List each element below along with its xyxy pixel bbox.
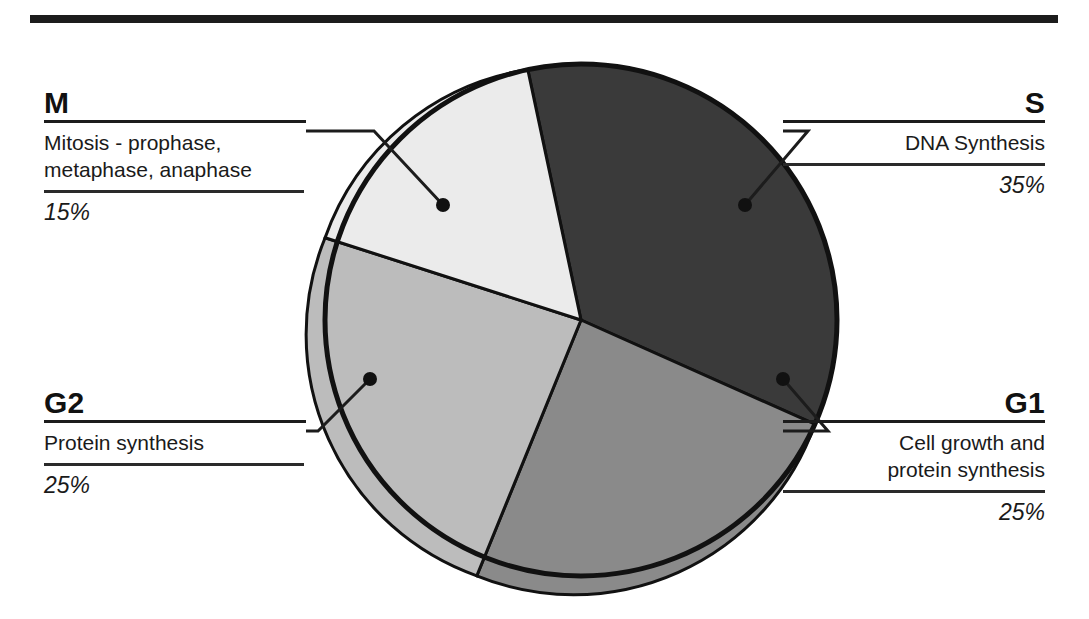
cell-cycle-figure: M Mitosis - prophase, metaphase, anaphas… — [0, 0, 1089, 619]
leader-dot-s — [738, 198, 752, 212]
callout-m[interactable]: M Mitosis - prophase, metaphase, anaphas… — [44, 88, 306, 225]
callout-g2-description: Protein synthesis — [44, 430, 306, 457]
leader-dot-g2 — [363, 372, 377, 386]
leader-dot-g1 — [776, 372, 790, 386]
callout-g1-percent: 25% — [783, 500, 1045, 525]
callout-s[interactable]: S DNA Synthesis 35% — [783, 88, 1045, 198]
callout-g2[interactable]: G2 Protein synthesis 25% — [44, 388, 306, 498]
callout-m-percent: 15% — [44, 200, 306, 225]
callout-g2-percent: 25% — [44, 473, 306, 498]
callout-m-key: M — [44, 88, 306, 120]
callout-s-top-rule — [783, 120, 1045, 123]
callout-g1[interactable]: G1 Cell growth and protein synthesis 25% — [783, 388, 1045, 525]
callout-s-percent: 35% — [783, 173, 1045, 198]
leader-dot-m — [436, 198, 450, 212]
callout-s-key: S — [783, 88, 1045, 120]
callout-g1-bottom-rule — [783, 490, 1045, 493]
callout-m-bottom-rule — [44, 190, 304, 193]
callout-g2-top-rule — [44, 420, 306, 423]
callout-g1-top-rule — [783, 420, 1045, 423]
callout-g1-key: G1 — [783, 388, 1045, 420]
callout-m-top-rule — [44, 120, 306, 123]
callout-g2-bottom-rule — [44, 463, 304, 466]
callout-m-description: Mitosis - prophase, metaphase, anaphase — [44, 130, 306, 184]
callout-g1-description: Cell growth and protein synthesis — [783, 430, 1045, 484]
callout-g2-key: G2 — [44, 388, 306, 420]
callout-s-description: DNA Synthesis — [783, 130, 1045, 157]
callout-s-bottom-rule — [783, 163, 1045, 166]
